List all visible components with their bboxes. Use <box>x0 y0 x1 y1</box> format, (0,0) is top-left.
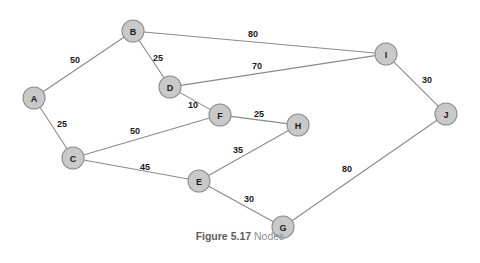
edge-weight-a-c: 25 <box>57 119 67 129</box>
nodes-layer: ABCDEFGHIJ <box>23 20 457 238</box>
node-label-e: E <box>196 177 202 187</box>
graph-edge-c-f <box>84 118 210 155</box>
node-label-b: B <box>130 27 137 37</box>
figure-caption-text: Nodes <box>254 230 284 242</box>
graph-edge-a-b <box>43 37 124 92</box>
edge-weight-c-f: 50 <box>130 126 140 136</box>
edge-weight-e-h: 35 <box>233 145 243 155</box>
node-label-c: C <box>70 154 77 164</box>
edge-weight-f-h: 25 <box>254 109 264 119</box>
node-label-f: F <box>217 111 223 121</box>
graph-edge-b-i <box>144 32 375 53</box>
graph-edge-c-e <box>84 160 188 179</box>
edge-weight-c-e: 45 <box>140 162 150 172</box>
graph-node-i[interactable]: I <box>375 43 397 65</box>
graph-edge-d-i <box>181 56 375 86</box>
edge-weight-i-j: 30 <box>422 75 432 85</box>
node-label-h: H <box>295 121 302 131</box>
graph-node-d[interactable]: D <box>159 76 181 98</box>
node-label-d: D <box>167 83 174 93</box>
graph-node-e[interactable]: E <box>188 170 210 192</box>
graph-edge-e-g <box>209 186 274 221</box>
edge-weight-d-i: 70 <box>252 61 262 71</box>
figure-caption: Figure 5.17 Nodes <box>0 229 480 243</box>
graph-node-b[interactable]: B <box>122 20 144 42</box>
graph-node-j[interactable]: J <box>435 103 457 125</box>
node-label-i: I <box>385 50 388 60</box>
graph-node-h[interactable]: H <box>287 114 309 136</box>
figure-caption-number: Figure 5.17 <box>196 230 251 242</box>
figure-nodes-graph: 50252580701050452535308030 ABCDEFGHIJ Fi… <box>0 0 480 263</box>
edge-weight-d-f: 10 <box>188 100 198 110</box>
graph-edge-e-h <box>209 130 289 175</box>
graph-node-a[interactable]: A <box>23 87 45 109</box>
edge-weight-b-d: 25 <box>153 53 163 63</box>
node-label-j: J <box>443 110 448 120</box>
graph-canvas: 50252580701050452535308030 ABCDEFGHIJ <box>0 0 480 263</box>
edge-weight-e-g: 30 <box>244 194 254 204</box>
graph-node-f[interactable]: F <box>209 104 231 126</box>
edge-weight-a-b: 50 <box>70 55 80 65</box>
graph-edge-g-j <box>292 120 437 220</box>
edge-weight-g-j: 80 <box>342 164 352 174</box>
edge-weight-b-i: 80 <box>248 29 258 39</box>
node-label-a: A <box>31 94 38 104</box>
graph-node-c[interactable]: C <box>62 147 84 169</box>
